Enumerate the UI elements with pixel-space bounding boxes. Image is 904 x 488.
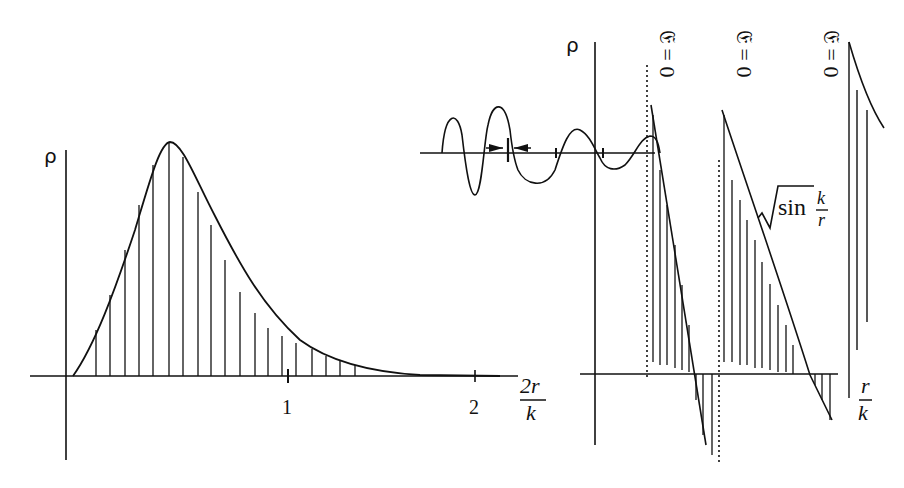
tick-label-1: 1: [282, 396, 292, 418]
segment-1-curve: [651, 105, 706, 445]
tick-label-2: 2: [469, 396, 479, 418]
right-panel: ρ 𝔈 = 0 𝔈 = 0 𝔈 = 0: [420, 30, 884, 462]
segment-3-hatching: [849, 42, 867, 398]
right-y-axis-label: ρ: [566, 33, 579, 57]
segment-1-hatching: [653, 115, 712, 455]
left-density-curve: [73, 142, 500, 376]
formula-numerator: k: [817, 188, 826, 208]
formula-func: sin: [778, 194, 806, 220]
left-y-axis-label: ρ: [44, 144, 57, 168]
left-x-label-numerator: 2r: [520, 373, 540, 398]
figure: ρ 1 2 2r k: [0, 0, 904, 488]
zero-label-2: 𝔈 = 0: [732, 30, 757, 77]
zero-label-3: 𝔈 = 0: [819, 30, 844, 77]
right-x-label-denominator: k: [858, 400, 869, 425]
formula-denominator: r: [818, 210, 826, 230]
formula-sqrt-sin-k-over-r: sin k r: [758, 186, 828, 230]
zero-label-1: 𝔈 = 0: [655, 30, 680, 77]
left-x-label-denominator: k: [526, 400, 537, 425]
left-panel: ρ 1 2 2r k: [30, 142, 546, 460]
node-arrows: [486, 138, 531, 162]
right-x-label-numerator: r: [861, 373, 870, 398]
wave-curve: [442, 107, 660, 195]
left-hatching: [96, 143, 355, 376]
